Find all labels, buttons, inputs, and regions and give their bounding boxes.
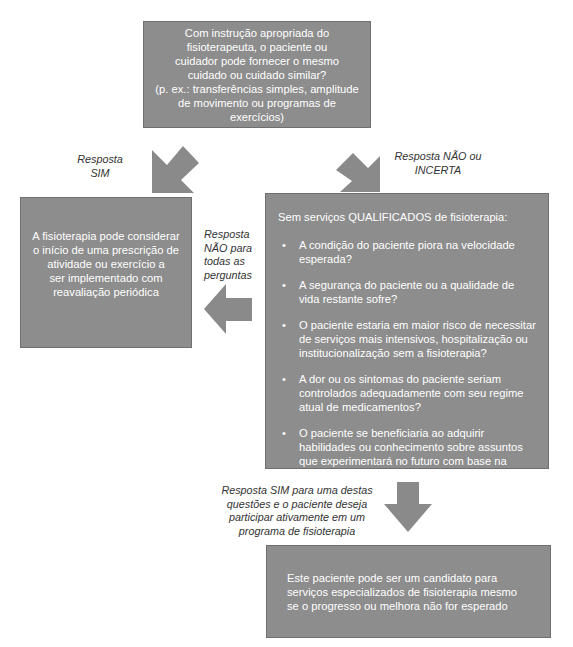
question-item: • A dor ou os sintomas do paciente seria… [278, 372, 536, 414]
text-line: fisioterapeuta, o paciente ou [150, 40, 364, 54]
text-line: atividade ou exercício a [32, 257, 179, 271]
text-line: Com instrução apropriada do [150, 26, 364, 40]
text-line: cuidador pode fornecer o mesmo [150, 54, 364, 68]
label-line: SIM [70, 167, 130, 181]
label-line: INCERTA [388, 164, 488, 178]
questions-heading: Sem serviços QUALIFICADOS de fisioterapi… [278, 210, 536, 224]
label-no-or-uncertain: Resposta NÃO ou INCERTA [388, 150, 488, 177]
text-line: o início de uma prescrição de [32, 243, 179, 257]
text-line: (p. ex.: transferências simples, amplitu… [150, 82, 364, 96]
outcome-box-exercise-prescription-text: A fisioterapia pode considerar o início … [32, 229, 179, 299]
label-line: perguntas [204, 269, 264, 283]
question-item: • O paciente se beneficiaria ao adquirir… [278, 426, 536, 482]
label-line: Resposta [70, 153, 130, 167]
question-text: O paciente se beneficiaria ao adquirir h… [299, 427, 523, 481]
outcome-box-specialized-services: Este paciente pode ser um candidato para… [266, 545, 551, 638]
arrow-down-icon [382, 482, 434, 534]
text-line: A fisioterapia pode considerar [32, 229, 179, 243]
label-yes-any-question: Resposta SIM para uma destas questões e … [212, 484, 382, 538]
label-line: todas as [204, 255, 264, 269]
label-line: programa de fisioterapia [212, 525, 382, 539]
question-box-caregiver: Com instrução apropriada do fisioterapeu… [143, 21, 371, 128]
question-text: A segurança do paciente ou a qualidade d… [299, 279, 514, 305]
question-box-caregiver-text: Com instrução apropriada do fisioterapeu… [150, 26, 364, 124]
bullet-icon: • [282, 318, 286, 332]
question-item: • A condição do paciente piora na veloci… [278, 238, 536, 266]
question-text: A condição do paciente piora na velocida… [299, 239, 515, 265]
questions-box-skilled-services: Sem serviços QUALIFICADOS de fisioterapi… [265, 193, 549, 469]
label-line: Resposta SIM para uma destas [212, 484, 382, 498]
outcome-box-exercise-prescription: A fisioterapia pode considerar o início … [20, 197, 192, 348]
bullet-icon: • [282, 238, 286, 252]
bullet-icon: • [282, 372, 286, 386]
arrow-down-right-icon [333, 140, 388, 195]
text-line: reavaliação periódica [32, 285, 179, 299]
label-line: Resposta [204, 228, 264, 242]
label-line: questões e o paciente deseja [212, 498, 382, 512]
text-line: de movimento ou programas de exercícios) [150, 96, 364, 124]
question-text: A dor ou os sintomas do paciente seriam … [299, 373, 524, 413]
label-yes: Resposta SIM [70, 153, 130, 180]
question-text: O paciente estaria em maior risco de nec… [299, 319, 536, 359]
label-line: participar ativamente em um [212, 511, 382, 525]
questions-list: • A condição do paciente piora na veloci… [278, 238, 536, 482]
question-item: • A segurança do paciente ou a qualidade… [278, 278, 536, 306]
label-line: Resposta NÃO ou [388, 150, 488, 164]
label-line: NÃO para [204, 242, 264, 256]
outcome-box-specialized-services-text: Este paciente pode ser um candidato para… [287, 571, 530, 613]
text-line: ser implementado com [32, 271, 179, 285]
arrow-down-left-icon [145, 140, 205, 195]
text-line: cuidado ou cuidado similar? [150, 68, 364, 82]
arrow-left-icon [202, 282, 254, 336]
label-no-all-questions: Resposta NÃO para todas as perguntas [204, 228, 264, 282]
bullet-icon: • [282, 278, 286, 292]
bullet-icon: • [282, 426, 286, 440]
question-item: • O paciente estaria em maior risco de n… [278, 318, 536, 360]
